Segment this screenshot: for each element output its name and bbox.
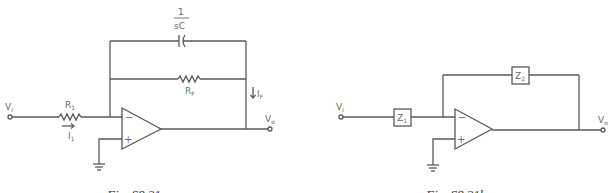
resistor-rf: [178, 76, 200, 82]
vi-label-a: Vi: [5, 102, 13, 113]
figure-a-integrator-circuit: Vi R1 I1 1 sC RF IF −: [5, 7, 275, 193]
cap-numerator: 1: [178, 7, 184, 17]
output-terminal-a: [268, 127, 272, 131]
vo-label-b: Vo: [598, 115, 608, 126]
ground-icon-b: [427, 165, 439, 171]
caption-fig-a: Fig. S8.21: [106, 187, 161, 193]
ground-wire-b: [433, 139, 455, 165]
vi-label-b: Vi: [336, 102, 344, 113]
input-terminal-a: [8, 115, 12, 119]
vo-label-a: Vo: [265, 114, 275, 125]
resistor-r1: [59, 114, 81, 120]
opamp-b-noninverting-sign: +: [457, 134, 465, 145]
r1-label: R1: [65, 100, 75, 111]
opamp-a-noninverting-sign: +: [124, 134, 132, 145]
figure-b-generic-inverting-circuit: Vi Z1 Z2 − + Vo Fig. S8.21b: [336, 67, 608, 193]
cap-denominator: sC: [174, 21, 185, 31]
output-terminal-b: [601, 128, 605, 132]
i1-label: I1: [68, 131, 75, 142]
circuit-diagrams: Vi R1 I1 1 sC RF IF −: [0, 0, 609, 193]
ground-icon-a: [93, 164, 105, 170]
opamp-a-inverting-sign: −: [125, 112, 133, 123]
input-terminal-b: [339, 115, 343, 119]
rf-label: RF: [185, 86, 195, 97]
ground-wire-a: [99, 139, 122, 164]
if-label: IF: [257, 89, 264, 100]
caption-fig-b: Fig. S8.21b: [425, 187, 487, 193]
opamp-b-inverting-sign: −: [458, 112, 466, 123]
